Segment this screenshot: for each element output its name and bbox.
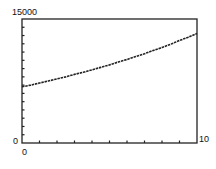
plot-area (0, 0, 216, 169)
data-line (22, 33, 197, 86)
